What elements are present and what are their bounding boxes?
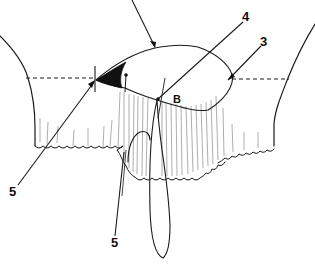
knot-stem	[125, 75, 126, 92]
right-scalloped-edge	[218, 149, 274, 163]
label-3: 3	[260, 34, 267, 49]
leader-top	[132, 0, 155, 47]
leader-5-left	[18, 82, 94, 185]
label-5-left: 5	[9, 184, 16, 199]
right-contour	[274, 24, 315, 146]
label-5-bottom: 5	[111, 235, 118, 250]
left-contour	[0, 36, 35, 146]
arrowhead-top	[150, 41, 156, 48]
central-scalloped-edge	[126, 162, 225, 180]
label-4: 4	[242, 9, 250, 24]
knot-b	[156, 97, 160, 101]
arrowhead-5-left	[88, 80, 95, 88]
surgical-diagram: 4 3 B 5 5	[0, 0, 315, 271]
black-wedge	[96, 62, 126, 88]
label-B: B	[173, 93, 181, 105]
tissue-hatching	[40, 92, 258, 176]
leader-5-bottom	[115, 152, 124, 236]
left-scalloped-edge	[35, 146, 126, 166]
